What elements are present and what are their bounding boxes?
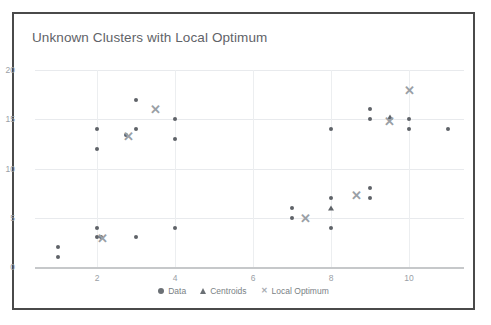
- legend-item-label: Centroids: [210, 286, 246, 296]
- triangle-icon: [200, 288, 206, 294]
- data-point: [329, 196, 333, 200]
- data-point: [329, 226, 333, 230]
- local-optimum-marker: ✕: [404, 83, 415, 96]
- y-gridline: [35, 169, 464, 170]
- data-point: [56, 255, 60, 259]
- chart-card: Unknown Clusters with Local Optimum 0510…: [12, 12, 475, 310]
- y-axis-tick-label: 10: [0, 164, 15, 174]
- data-point: [368, 196, 372, 200]
- local-optimum-marker: ✕: [97, 232, 108, 245]
- data-point: [368, 186, 372, 190]
- data-point: [173, 137, 177, 141]
- y-gridline: [35, 267, 464, 269]
- data-point: [290, 216, 294, 220]
- local-optimum-marker: ✕: [351, 189, 362, 202]
- y-gridline: [35, 119, 464, 120]
- data-point: [446, 127, 450, 131]
- data-point: [368, 107, 372, 111]
- x-gridline: [409, 70, 410, 267]
- data-point: [173, 117, 177, 121]
- y-axis-tick-label: 15: [0, 114, 15, 124]
- legend-item[interactable]: Data: [158, 286, 186, 296]
- x-axis-tick-label: 2: [85, 273, 109, 283]
- data-point: [173, 226, 177, 230]
- local-optimum-marker: ✕: [300, 211, 311, 224]
- scatter-plot-area: 05101520246810✕✕✕✕✕✕✕: [14, 14, 477, 312]
- data-point: [290, 206, 294, 210]
- centroid-marker: [328, 205, 334, 210]
- chart-legend: DataCentroids✕Local Optimum: [14, 286, 473, 296]
- y-axis-tick-label: 5: [0, 213, 15, 223]
- local-optimum-marker: ✕: [150, 103, 161, 116]
- data-point: [407, 127, 411, 131]
- legend-item[interactable]: ✕Local Optimum: [261, 286, 329, 296]
- data-point: [368, 117, 372, 121]
- y-gridline: [35, 218, 464, 219]
- x-gridline: [331, 70, 332, 267]
- x-axis-tick-label: 6: [241, 273, 265, 283]
- circle-icon: [158, 288, 164, 294]
- local-optimum-marker: ✕: [123, 129, 134, 142]
- x-gridline: [253, 70, 254, 267]
- data-point: [95, 147, 99, 151]
- x-axis-tick-label: 10: [397, 273, 421, 283]
- data-point: [95, 226, 99, 230]
- data-point: [407, 117, 411, 121]
- y-gridline: [35, 70, 464, 71]
- x-icon: ✕: [261, 287, 268, 295]
- x-gridline: [175, 70, 176, 267]
- data-point: [134, 127, 138, 131]
- data-point: [134, 235, 138, 239]
- x-axis-tick-label: 8: [319, 273, 343, 283]
- x-axis-tick-label: 4: [163, 273, 187, 283]
- legend-item-label: Data: [168, 286, 186, 296]
- data-point: [95, 127, 99, 131]
- data-point: [134, 98, 138, 102]
- legend-item[interactable]: Centroids: [200, 286, 246, 296]
- local-optimum-marker: ✕: [384, 115, 395, 128]
- data-point: [329, 127, 333, 131]
- data-point: [56, 245, 60, 249]
- y-axis-tick-label: 20: [0, 65, 15, 75]
- y-axis-tick-label: 0: [0, 262, 15, 272]
- legend-item-label: Local Optimum: [272, 286, 329, 296]
